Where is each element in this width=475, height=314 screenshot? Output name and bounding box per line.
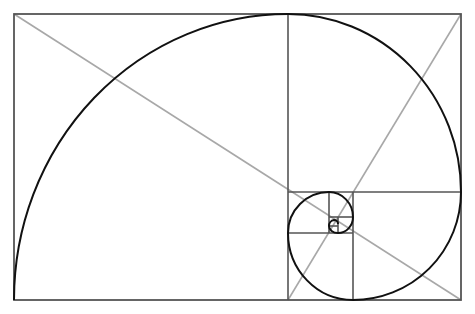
golden-spiral-diagram [0,0,475,314]
